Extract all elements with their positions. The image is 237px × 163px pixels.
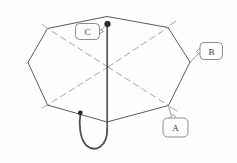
rib-stub-lower-left [42,105,47,108]
canopy-edge-upper-right [168,28,190,63]
canopy-edge-bottom-right [107,106,169,123]
callout-a[interactable]: A [163,115,188,138]
callout-a-box[interactable] [163,118,188,137]
canopy-edge-top-right [107,17,168,28]
handle-curve [80,114,108,149]
canopy-edge-upper-left [28,29,48,63]
rib-stub-lower-right [170,107,177,111]
rib-to-lower-left-vertex [48,67,109,105]
rib-to-lower-right-vertex [108,67,169,106]
rib-to-upper-right-vertex [108,28,168,68]
canopy-outline [28,17,190,123]
rib-stub-upper-left [42,24,47,28]
callout-b[interactable]: B [197,43,223,60]
rib-stub-upper-right [170,21,176,25]
canopy-edge-lower-left [28,63,48,106]
figure-canvas: C B A [0,0,237,163]
callout-c[interactable]: C [76,24,104,40]
callout-b-box[interactable] [200,43,223,60]
handle-tip-dot [78,110,83,115]
finial-dot [105,21,111,27]
hook-handle [78,110,107,148]
umbrella-diagram: C B A [0,0,237,163]
canopy-edge-bottom-left [48,105,108,122]
callout-c-box[interactable] [76,24,100,40]
canopy-edge-lower-right [169,62,191,106]
